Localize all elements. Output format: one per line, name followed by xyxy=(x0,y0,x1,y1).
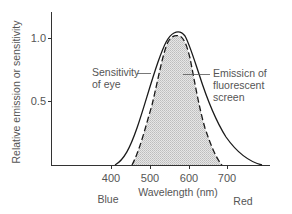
x-axis-label: Wavelength (nm) xyxy=(138,186,218,198)
y-axis-label: Relative emission or sensitivity xyxy=(10,20,22,164)
x-tick-label-500: 500 xyxy=(141,172,159,184)
eye-annotation-line2: of eye xyxy=(92,78,121,90)
chart: 1.0 0.5 400 500 600 700 Wavelength (nm) … xyxy=(0,0,292,214)
y-tick-label-0.5: 0.5 xyxy=(31,95,46,107)
eye-annotation-line1: Sensitivity xyxy=(92,66,140,78)
x-tick-label-400: 400 xyxy=(102,172,120,184)
emission-annotation-line2: fluorescent xyxy=(213,79,264,91)
emission-annotation-line3: screen xyxy=(213,91,245,103)
x-tick-label-700: 700 xyxy=(218,172,236,184)
blue-label: Blue xyxy=(97,193,118,205)
x-tick-label-600: 600 xyxy=(180,172,198,184)
red-label: Red xyxy=(233,195,252,207)
y-tick-label-1.0: 1.0 xyxy=(31,32,46,44)
emission-annotation-line1: Emissicn of xyxy=(213,67,267,79)
